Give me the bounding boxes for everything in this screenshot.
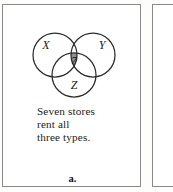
figure-caption: Seven stores rent all three types. <box>37 105 141 145</box>
venn-count-triple-intersection: 7 <box>71 54 77 66</box>
figure-panel-b <box>152 4 173 187</box>
figure-panel-a: X Y Z 7 Seven stores rent all three type… <box>2 4 141 187</box>
venn-diagram: X Y Z 7 <box>3 15 142 103</box>
venn-label-y: Y <box>99 38 107 52</box>
caption-line-2: rent all <box>37 118 141 131</box>
venn-label-z: Z <box>71 78 78 92</box>
figure-label: a. <box>3 173 142 184</box>
caption-line-3: three types. <box>37 131 141 144</box>
figure-page: X Y Z 7 Seven stores rent all three type… <box>0 0 173 192</box>
venn-label-x: X <box>41 38 50 52</box>
caption-line-1: Seven stores <box>37 105 141 118</box>
